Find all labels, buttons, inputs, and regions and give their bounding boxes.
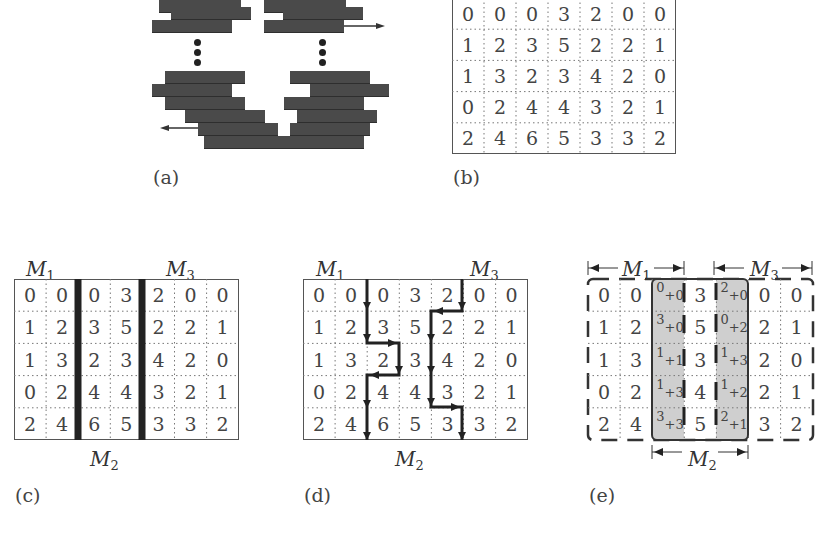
matrix-cell: 2 xyxy=(50,315,74,339)
matrix-cell: 2 xyxy=(616,33,640,57)
matrix-cell: 3 xyxy=(403,283,427,307)
matrix-cell: 0 xyxy=(456,95,480,119)
matrix-cell: 3 xyxy=(179,412,203,436)
matrix-cell: 3 xyxy=(753,412,777,436)
matrix-cell: 4 xyxy=(50,412,74,436)
matrix-cell: 0 xyxy=(371,283,395,307)
matrix-cell: 0 xyxy=(468,283,492,307)
matrix-cell: 1 xyxy=(211,380,235,404)
matrix-cell: 3 xyxy=(688,348,712,372)
matrix-cell: 5 xyxy=(114,315,138,339)
matrix-cell: 3+0 xyxy=(656,315,680,339)
matrix-cell: 0 xyxy=(179,283,203,307)
matrix-cell: 1 xyxy=(456,33,480,57)
matrix-cell: 3 xyxy=(435,380,459,404)
matrix-cell: 3 xyxy=(624,348,648,372)
matrix-cell: 3 xyxy=(468,412,492,436)
matrix-cell: 4 xyxy=(114,380,138,404)
matrix-cell: 0 xyxy=(648,2,672,26)
matrix-cell: 3 xyxy=(339,348,363,372)
matrix-cell: 2 xyxy=(435,315,459,339)
matrix-cell: 0 xyxy=(592,283,616,307)
matrix-cell: 4 xyxy=(488,126,512,150)
matrix-cell: 4 xyxy=(624,412,648,436)
matrix-cell: 0 xyxy=(616,2,640,26)
matrix-cell: 4 xyxy=(688,380,712,404)
matrix-cell: 3 xyxy=(50,348,74,372)
matrix-cell: 3 xyxy=(552,64,576,88)
matrix-cell: 2 xyxy=(18,412,42,436)
matrix-cell: 1 xyxy=(456,64,480,88)
matrix-cell: 2 xyxy=(584,33,608,57)
matrix-cell: 5 xyxy=(688,315,712,339)
matrix-cell: 4 xyxy=(520,95,544,119)
matrix-cell: 3 xyxy=(435,412,459,436)
matrix-cell: 3 xyxy=(371,315,395,339)
matrix-cell: 3 xyxy=(584,95,608,119)
matrix-cell: 2 xyxy=(146,315,170,339)
matrix-cell: 2 xyxy=(50,380,74,404)
matrix-cell: 2 xyxy=(785,412,809,436)
matrix-cell: 2 xyxy=(179,380,203,404)
matrix-cell: 3 xyxy=(552,2,576,26)
matrix-cell: 1 xyxy=(500,315,524,339)
matrix-cell: 0 xyxy=(18,380,42,404)
matrix-cell: 6 xyxy=(371,412,395,436)
matrix-cell: 4 xyxy=(339,412,363,436)
matrix-cell: 2 xyxy=(624,380,648,404)
matrix-cell: 6 xyxy=(520,126,544,150)
matrix-cell: 0 xyxy=(785,348,809,372)
matrix-cell: 2 xyxy=(753,348,777,372)
matrix-cell: 0 xyxy=(500,283,524,307)
matrix-cell: 2 xyxy=(488,33,512,57)
matrix-cell: 2 xyxy=(339,315,363,339)
matrix-cell: 5 xyxy=(114,412,138,436)
matrix-cell: 4 xyxy=(584,64,608,88)
matrix-cell: 2 xyxy=(624,315,648,339)
matrix-cell: 4 xyxy=(371,380,395,404)
matrix-cell: 3 xyxy=(616,126,640,150)
matrix-cell: 2 xyxy=(179,348,203,372)
matrix-cell: 5 xyxy=(403,412,427,436)
matrix-cell: 0 xyxy=(339,283,363,307)
matrix-cell: 2 xyxy=(616,64,640,88)
matrix-cell: 2 xyxy=(371,348,395,372)
matrix-cell: 3 xyxy=(114,348,138,372)
matrix-cell: 0 xyxy=(50,283,74,307)
matrix-cell: 3 xyxy=(114,283,138,307)
matrix-cell: 1 xyxy=(18,315,42,339)
matrix-cell: 0 xyxy=(624,283,648,307)
matrix-cell: 2 xyxy=(435,283,459,307)
matrix-cell: 4 xyxy=(403,380,427,404)
matrix-cell: 0 xyxy=(82,283,106,307)
matrix-cell: 1 xyxy=(18,348,42,372)
matrix-cell: 0 xyxy=(500,348,524,372)
matrix-cell: 5 xyxy=(552,33,576,57)
matrix-cell: 0 xyxy=(456,2,480,26)
matrix-cell: 2 xyxy=(339,380,363,404)
matrix-cell: 3 xyxy=(520,33,544,57)
matrix-cell: 2 xyxy=(520,64,544,88)
matrix-cell: 2 xyxy=(500,412,524,436)
figure-overlay xyxy=(0,0,820,540)
matrix-cell: 3 xyxy=(488,64,512,88)
matrix-cell: 2 xyxy=(146,283,170,307)
matrix-cell: 2 xyxy=(488,95,512,119)
matrix-cell: 2 xyxy=(468,380,492,404)
matrix-cell: 1 xyxy=(785,380,809,404)
matrix-cell: 1 xyxy=(500,380,524,404)
matrix-cell: 2+1 xyxy=(720,412,744,436)
matrix-cell: 2 xyxy=(616,95,640,119)
matrix-cell: 2 xyxy=(82,348,106,372)
matrix-cell: 0 xyxy=(592,380,616,404)
matrix-cell: 2+0 xyxy=(720,283,744,307)
matrix-cell: 1 xyxy=(592,315,616,339)
matrix-cell: 2 xyxy=(468,315,492,339)
matrix-cell: 2 xyxy=(211,412,235,436)
matrix-cell: 2 xyxy=(179,315,203,339)
matrix-cell: 0 xyxy=(307,283,331,307)
matrix-cell: 1+3 xyxy=(720,348,744,372)
matrix-cell: 2 xyxy=(307,412,331,436)
matrix-cell: 1 xyxy=(592,348,616,372)
matrix-cell: 0 xyxy=(18,283,42,307)
